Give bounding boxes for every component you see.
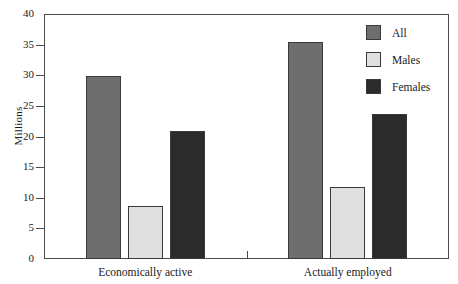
y-axis-title: Millions [12,81,24,171]
legend-item-females: Females [366,73,452,100]
y-axis-tick-label-wrap: 35 [0,39,34,50]
legend-label-all: All [392,27,407,39]
y-axis-tick-label-wrap: 30 [0,69,34,80]
y-axis-tick [36,228,44,229]
x-axis-center-tick [247,251,248,259]
legend-item-males: Males [366,46,452,73]
x-axis-category-label: Economically active [55,266,235,278]
y-axis-tick-label-wrap: 40 [0,8,34,19]
x-axis-category-label: Actually employed [258,266,438,278]
y-axis-tick-label: 20 [4,131,34,142]
legend-swatch-males [366,52,381,67]
bar-females-economically-active [170,131,205,259]
legend: AllMalesFemales [366,19,452,100]
y-axis-tick-label-wrap: 20 [0,131,34,142]
y-axis-tick [36,45,44,46]
y-axis-tick-label-wrap: 15 [0,161,34,172]
y-axis-tick-label: 0 [4,253,34,264]
bar-males-actually-employed [330,187,365,259]
y-axis-tick [36,198,44,199]
y-axis-tick-label-wrap: 25 [0,100,34,111]
y-axis-tick-label: 25 [4,100,34,111]
legend-swatch-all [366,25,381,40]
y-axis-tick-label-wrap: 5 [0,222,34,233]
y-axis-tick-label: 30 [4,69,34,80]
legend-label-males: Males [392,54,420,66]
bar-all-economically-active [86,76,121,259]
bar-chart: Millions 0510152025303540 Economically a… [0,0,458,284]
y-axis-tick-label: 5 [4,222,34,233]
bar-females-actually-employed [372,114,407,259]
bar-males-economically-active [128,206,163,259]
bar-all-actually-employed [288,42,323,259]
y-axis-tick-label: 15 [4,161,34,172]
legend-swatch-females [366,79,381,94]
y-axis-tick-label: 40 [4,8,34,19]
legend-label-females: Females [392,81,430,93]
y-axis-tick [36,75,44,76]
y-axis-tick-label-wrap: 0 [0,253,34,264]
y-axis-tick-label: 35 [4,39,34,50]
y-axis-tick [36,167,44,168]
y-axis-tick-label: 10 [4,192,34,203]
y-axis-tick-label-wrap: 10 [0,192,34,203]
legend-item-all: All [366,19,452,46]
y-axis-tick [36,106,44,107]
y-axis-tick [36,137,44,138]
